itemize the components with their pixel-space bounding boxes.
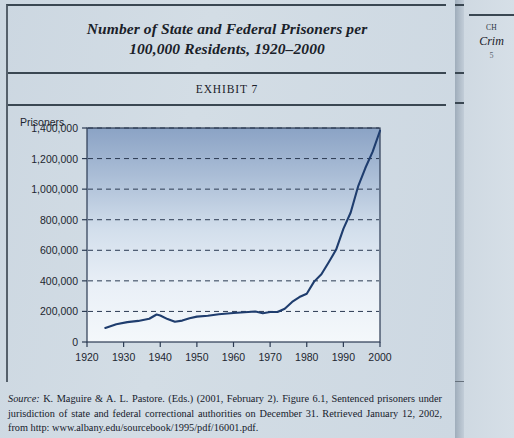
x-axis-tick-label: 1980: [295, 351, 319, 363]
page-sheet: Number of State and Federal Prisoners pe…: [0, 0, 455, 438]
figure-box: Number of State and Federal Prisoners pe…: [6, 4, 446, 382]
adjacent-page-fragment: CH Crim 5: [455, 0, 514, 438]
source-text: K. Maguire & A. L. Pastore. (Eds.) (2001…: [8, 393, 442, 433]
x-axis-tick-label: 1920: [75, 351, 99, 363]
y-axis-tick-labels: 0200,000400,000600,000800,0001,000,0001,…: [31, 122, 78, 348]
y-axis-tick-label: 400,000: [40, 275, 78, 287]
source-note: Source: K. Maguire & A. L. Pastore. (Eds…: [8, 392, 442, 436]
adjacent-figure-edge: [455, 4, 464, 382]
chart-area: Prisoners: [8, 106, 446, 382]
adjacent-chapter-label: CH: [469, 23, 514, 32]
x-axis-tick-label: 1960: [222, 351, 246, 363]
y-axis-tick-label: 800,000: [40, 214, 78, 226]
x-axis-tick-label: 1950: [185, 351, 209, 363]
x-axis-tick-label: 1970: [258, 351, 282, 363]
plot-background: [87, 128, 380, 342]
adjacent-chapter-title: Crim: [469, 34, 514, 49]
x-axis-ticks: [87, 342, 380, 347]
source-label: Source:: [8, 393, 40, 404]
adjacent-edge-rule-bottom: [455, 102, 464, 104]
x-axis-tick-label: 2000: [368, 351, 392, 363]
adjacent-edge-rule-top: [455, 72, 464, 74]
y-axis-tick-label: 200,000: [40, 305, 78, 317]
page-gutter: [455, 0, 464, 438]
y-axis-tick-label: 1,000,000: [31, 183, 78, 195]
x-axis-tick-labels: 192019301940195019601970198019902000: [75, 351, 392, 363]
adjacent-header-rule: [469, 14, 514, 16]
y-axis-tick-label: 600,000: [40, 244, 78, 256]
x-axis-tick-label: 1990: [332, 351, 356, 363]
figure-title-band: Number of State and Federal Prisoners pe…: [8, 6, 446, 74]
x-axis-tick-label: 1930: [112, 351, 136, 363]
page-title: Number of State and Federal Prisoners pe…: [87, 19, 368, 59]
line-chart: 0200,000400,000600,000800,0001,000,0001,…: [8, 106, 444, 382]
figure-title-line-2: 100,000 Residents, 1920–2000: [129, 40, 325, 57]
adjacent-subtitle: 5: [469, 51, 514, 60]
y-axis-tick-label: 1,200,000: [31, 153, 78, 165]
x-axis-tick-label: 1940: [149, 351, 173, 363]
plot-wrapper: 0200,000400,000600,000800,0001,000,0001,…: [8, 106, 446, 382]
figure-title-line-1: Number of State and Federal Prisoners pe…: [87, 20, 368, 37]
exhibit-band: EXHIBIT 7: [8, 74, 446, 106]
adjacent-page-header: CH Crim 5: [469, 14, 514, 60]
exhibit-label: EXHIBIT 7: [196, 83, 259, 95]
y-axis-tick-label: 0: [72, 336, 78, 348]
y-axis-tick-label: 1,400,000: [31, 122, 78, 134]
